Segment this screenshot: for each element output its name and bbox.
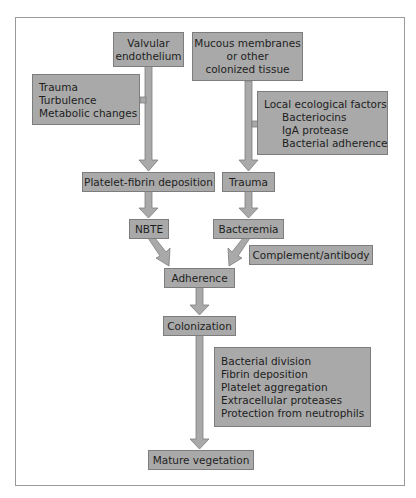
node-adherence: Adherence (164, 268, 235, 288)
node-colonization: Colonization (163, 316, 236, 336)
node-text: Trauma (229, 176, 268, 189)
arrow-colonization-to-mature (190, 335, 209, 449)
node-text: Extracellular proteases (221, 394, 364, 407)
node-text: Turbulence (39, 94, 133, 107)
arrow-adherence-to-colonization (190, 287, 209, 315)
node-text: Trauma (39, 81, 133, 94)
node-text: Mature vegetation (153, 454, 250, 467)
node-valvular-endothelium: Valvular endothelium (113, 32, 184, 67)
node-text: Complement/antibody (252, 249, 369, 262)
node-local-ecological-factors: Local ecological factors Bacteriocins Ig… (257, 91, 388, 155)
arrow-platelet-to-nbte (139, 191, 158, 218)
node-text: Platelet aggregation (221, 381, 364, 394)
node-complement-antibody: Complement/antibody (249, 245, 373, 265)
arrow-bacteremia-to-adherence (228, 238, 250, 266)
arrow-valvular-to-platelet (139, 66, 158, 171)
node-title: Local ecological factors (264, 98, 381, 111)
node-text: Fibrin deposition (221, 368, 364, 381)
node-mucous-membranes: Mucous membranes or other colonized tiss… (192, 32, 303, 81)
arrow-trauma-to-bacteremia (239, 191, 258, 218)
node-text: Platelet-fibrin deposition (84, 176, 213, 189)
node-text: colonized tissue (205, 63, 289, 76)
node-text: Bacteriocins (264, 111, 381, 124)
node-bacteremia: Bacteremia (213, 219, 284, 239)
node-trauma: Trauma (222, 172, 275, 192)
node-mature-vegetation: Mature vegetation (148, 450, 254, 470)
node-text: Bacterial division (221, 355, 364, 368)
node-trauma-factors: Trauma Turbulence Metabolic changes (32, 74, 140, 125)
node-text: Adherence (171, 272, 227, 285)
arrow-nbte-to-adherence (148, 238, 170, 266)
connector-trauma-factors (140, 97, 146, 103)
node-text: Mucous membranes (194, 37, 300, 50)
node-text: Colonization (167, 320, 232, 333)
node-nbte: NBTE (129, 219, 169, 239)
node-text: endothelium (115, 50, 181, 63)
node-text: IgA protease (264, 124, 381, 137)
node-text: Valvular (127, 37, 169, 50)
node-platelet-fibrin-deposition: Platelet-fibrin deposition (82, 172, 215, 192)
node-text: or other (226, 50, 268, 63)
node-text: Bacteremia (218, 223, 278, 236)
node-text: NBTE (135, 223, 163, 236)
node-text: Bacterial adherence (264, 137, 381, 150)
node-text: Protection from neutrophils (221, 407, 364, 420)
node-growth-factors: Bacterial division Fibrin deposition Pla… (214, 347, 371, 427)
node-text: Metabolic changes (39, 107, 133, 120)
